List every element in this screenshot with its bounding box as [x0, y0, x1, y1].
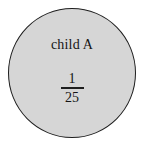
set-circle-child-a — [8, 8, 136, 138]
diagram-canvas: child A 1 25 — [0, 0, 147, 149]
